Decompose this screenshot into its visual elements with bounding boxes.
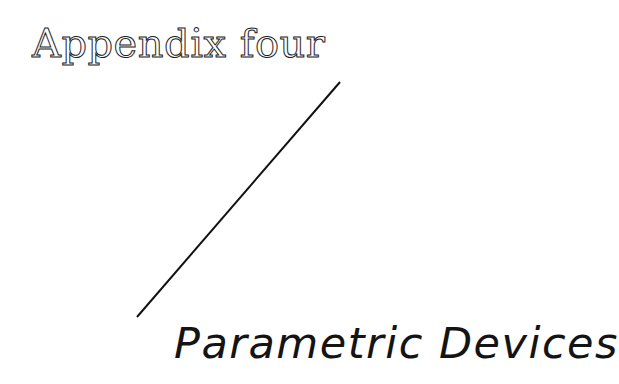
page-title: Parametric Devices <box>174 318 619 368</box>
